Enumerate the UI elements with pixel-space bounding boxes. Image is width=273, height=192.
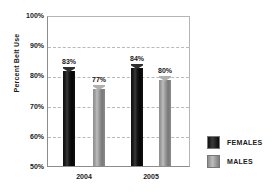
bar-body	[131, 68, 143, 166]
bar-2004-females[interactable]: 83%	[63, 67, 75, 166]
y-tick-label: 50%	[18, 163, 44, 171]
x-axis-tick-labels: 2004 2005	[47, 172, 190, 186]
bar-value-label: 77%	[92, 76, 106, 84]
y-tick-label: 70%	[18, 103, 44, 111]
bar-value-label: 80%	[158, 67, 172, 75]
y-tick-label: 60%	[18, 133, 44, 141]
bar-body	[159, 80, 171, 166]
bar-2005-males[interactable]: 80%	[159, 76, 171, 166]
y-tick-label: 80%	[18, 72, 44, 80]
x-tick-label-2005: 2005	[128, 172, 174, 182]
bar-body	[63, 71, 75, 166]
legend-label-males: MALES	[227, 157, 253, 166]
bar-chart: Percent Belt Use 100% 90% 80% 70% 60% 50…	[0, 0, 273, 192]
legend-item-females[interactable]: FEMALES	[207, 133, 273, 152]
y-tick-label: 90%	[18, 42, 44, 50]
legend-item-males[interactable]: MALES	[207, 152, 273, 171]
bar-value-label: 84%	[130, 55, 144, 63]
x-tick-label-2004: 2004	[61, 172, 107, 182]
legend-swatch-males-icon	[207, 155, 220, 168]
chart-legend: FEMALES MALES	[207, 133, 273, 171]
bar-2005-females[interactable]: 84%	[131, 64, 143, 166]
y-axis-tick-labels: 100% 90% 80% 70% 60% 50%	[0, 0, 44, 192]
gridline-90	[48, 47, 189, 48]
y-tick-label: 100%	[18, 12, 44, 20]
bar-value-label: 83%	[62, 58, 76, 66]
legend-swatch-females-icon	[207, 136, 220, 149]
plot-area: 83% 77% 84% 80%	[47, 16, 190, 167]
bar-body	[93, 89, 105, 166]
legend-label-females: FEMALES	[227, 138, 263, 147]
bar-2004-males[interactable]: 77%	[93, 85, 105, 166]
